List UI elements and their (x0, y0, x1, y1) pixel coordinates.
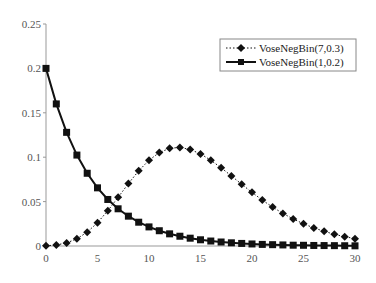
y-tick-label: 0.15 (22, 107, 42, 119)
diamond-marker-icon (207, 156, 215, 164)
diamond-marker-icon (166, 144, 174, 152)
square-marker-icon (104, 196, 111, 203)
legend-label: VoseNegBin(7,0.3) (259, 42, 344, 55)
x-tick-label: 0 (43, 252, 49, 264)
square-marker-icon (249, 240, 256, 247)
square-marker-icon (290, 242, 297, 249)
x-tick-label: 25 (298, 252, 310, 264)
square-marker-icon (238, 59, 244, 65)
x-tick-label: 5 (95, 252, 101, 264)
y-tick-label: 0.1 (27, 151, 41, 163)
square-marker-icon (94, 184, 101, 191)
diamond-marker-icon (269, 203, 277, 211)
square-marker-icon (218, 239, 225, 246)
square-marker-icon (146, 223, 153, 230)
y-tick-label: 0.2 (27, 62, 41, 74)
square-marker-icon (166, 230, 173, 237)
square-marker-icon (125, 213, 132, 220)
square-marker-icon (197, 236, 204, 243)
diamond-marker-icon (197, 150, 205, 158)
series-negbin-7-0.3 (42, 143, 359, 249)
x-tick-label: 30 (350, 252, 362, 264)
diamond-marker-icon (73, 235, 81, 243)
diamond-marker-icon (289, 215, 297, 223)
square-marker-icon (228, 239, 235, 246)
diamond-marker-icon (258, 196, 266, 204)
legend-label: VoseNegBin(1,0.2) (259, 56, 344, 69)
y-tick-label: 0.05 (22, 196, 42, 208)
square-marker-icon (238, 240, 245, 247)
square-marker-icon (176, 233, 183, 240)
square-marker-icon (269, 241, 276, 248)
x-tick-label: 20 (247, 252, 259, 264)
diamond-marker-icon (94, 219, 102, 227)
square-marker-icon (43, 65, 50, 72)
square-marker-icon (135, 219, 142, 226)
square-marker-icon (310, 242, 317, 249)
square-marker-icon (115, 205, 122, 212)
y-tick-label: 0.25 (22, 18, 42, 30)
square-marker-icon (187, 235, 194, 242)
square-marker-icon (63, 129, 70, 136)
diamond-marker-icon (104, 207, 112, 215)
diamond-marker-icon (341, 233, 349, 241)
diamond-marker-icon (351, 235, 359, 243)
square-marker-icon (259, 241, 266, 248)
diamond-marker-icon (155, 149, 163, 157)
diamond-marker-icon (42, 242, 50, 250)
diamond-marker-icon (114, 193, 122, 201)
legend: VoseNegBin(7,0.3) VoseNegBin(1,0.2) (220, 39, 356, 71)
diamond-marker-icon (52, 241, 60, 249)
diamond-marker-icon (300, 220, 308, 228)
square-marker-icon (331, 242, 338, 249)
x-tick-label: 10 (144, 252, 156, 264)
diamond-marker-icon (310, 224, 318, 232)
square-marker-icon (156, 227, 163, 234)
chart: 00.050.10.150.20.25051015202530 VoseNegB… (0, 0, 376, 283)
diamond-marker-icon (330, 230, 338, 238)
diamond-marker-icon (83, 228, 91, 236)
diamond-marker-icon (124, 180, 132, 188)
x-tick-label: 15 (195, 252, 207, 264)
square-marker-icon (53, 100, 60, 107)
series-line (46, 147, 355, 245)
diamond-marker-icon (176, 143, 184, 151)
square-marker-icon (352, 242, 359, 249)
diamond-marker-icon (145, 156, 153, 164)
y-tick-label: 0 (36, 240, 42, 252)
square-marker-icon (300, 242, 307, 249)
diamond-marker-icon (186, 145, 194, 153)
diamond-marker-icon (320, 227, 328, 235)
diamond-marker-icon (279, 209, 287, 217)
diamond-marker-icon (227, 172, 235, 180)
square-marker-icon (73, 152, 80, 159)
square-marker-icon (279, 241, 286, 248)
square-marker-icon (84, 170, 91, 177)
square-marker-icon (341, 242, 348, 249)
series-layer (42, 65, 359, 250)
square-marker-icon (207, 238, 214, 245)
diamond-marker-icon (135, 167, 143, 175)
square-marker-icon (321, 242, 328, 249)
